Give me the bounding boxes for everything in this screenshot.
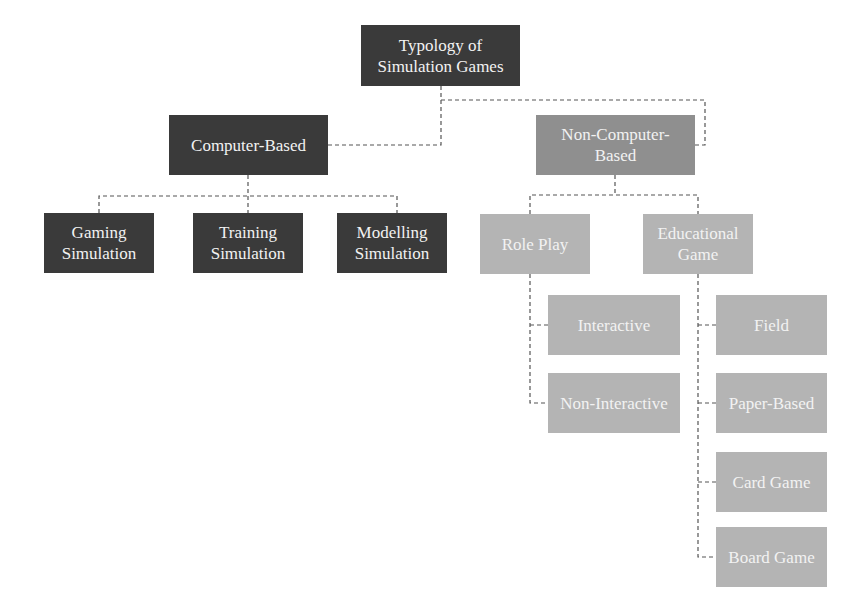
node-label: Paper-Based <box>729 393 815 414</box>
node-computer-based: Computer-Based <box>169 115 328 175</box>
node-educational-game: Educational Game <box>643 214 753 274</box>
node-modelling-simulation: Modelling Simulation <box>337 213 447 273</box>
node-card-game: Card Game <box>716 452 827 512</box>
node-label: Modelling Simulation <box>355 222 430 264</box>
node-label: Computer-Based <box>191 135 306 156</box>
node-board-game: Board Game <box>716 527 827 587</box>
node-label: Educational Game <box>657 223 738 265</box>
node-gaming-simulation: Gaming Simulation <box>44 213 154 273</box>
node-non-interactive: Non-Interactive <box>548 373 680 433</box>
node-typology-of-simulation-games: Typology of Simulation Games <box>361 25 520 86</box>
node-label: Non-Computer- Based <box>561 124 669 166</box>
node-label: Interactive <box>578 315 651 336</box>
node-label: Card Game <box>733 472 811 493</box>
node-label: Non-Interactive <box>560 393 668 414</box>
node-label: Training Simulation <box>211 222 286 264</box>
node-field: Field <box>716 295 827 355</box>
node-interactive: Interactive <box>548 295 680 355</box>
node-label: Typology of Simulation Games <box>377 35 503 77</box>
node-paper-based: Paper-Based <box>716 373 827 433</box>
node-label: Board Game <box>728 547 814 568</box>
node-label: Field <box>754 315 789 336</box>
node-role-play: Role Play <box>480 214 590 274</box>
node-training-simulation: Training Simulation <box>193 213 303 273</box>
node-non-computer-based: Non-Computer- Based <box>536 115 695 175</box>
node-label: Role Play <box>502 234 569 255</box>
node-label: Gaming Simulation <box>62 222 137 264</box>
